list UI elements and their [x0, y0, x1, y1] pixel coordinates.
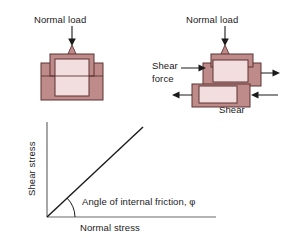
figure-root: Normal load Normal load Shear force Shea… [0, 0, 284, 238]
chart-angle-annotation: Angle of internal friction, φ [82, 196, 196, 207]
chart-y-axis-label: Shear stress [26, 141, 37, 196]
chart-x-axis-label: Normal stress [80, 222, 140, 233]
chart-angle-arc [67, 198, 75, 217]
